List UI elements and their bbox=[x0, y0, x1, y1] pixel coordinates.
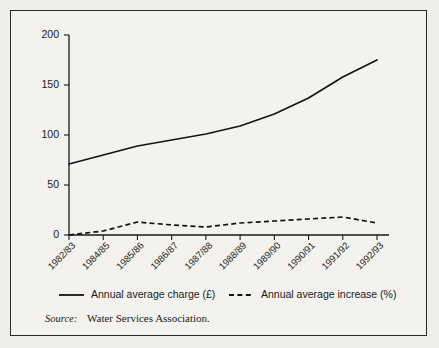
y-tick-label: 200 bbox=[41, 28, 59, 40]
chart-axes bbox=[69, 35, 389, 235]
y-tick-label: 150 bbox=[41, 78, 59, 90]
x-tick-label: 1992/93 bbox=[353, 240, 385, 272]
x-tick-label: 1989/90 bbox=[251, 240, 283, 272]
y-axis-ticks: 050100150200 bbox=[41, 28, 69, 240]
y-tick-label: 0 bbox=[53, 228, 59, 240]
chart-legend: Annual average charge (£)Annual average … bbox=[59, 288, 396, 300]
x-tick-label: 1990/91 bbox=[285, 240, 317, 272]
source-note: Source:Water Services Association. bbox=[45, 312, 210, 324]
x-tick-label: 1991/92 bbox=[319, 240, 351, 272]
source-word: Source: bbox=[45, 313, 77, 324]
line-chart: 050100150200 1982/831984/851985/861986/8… bbox=[11, 11, 428, 337]
series-line-charge bbox=[69, 60, 377, 164]
x-tick-label: 1988/89 bbox=[216, 240, 248, 272]
x-axis-labels: 1982/831984/851985/861986/871987/881988/… bbox=[45, 240, 385, 272]
x-tick-label: 1987/88 bbox=[182, 240, 214, 272]
x-tick-label: 1984/85 bbox=[80, 240, 112, 272]
y-tick-label: 50 bbox=[47, 178, 59, 190]
axis-lines bbox=[69, 35, 389, 235]
x-tick-label: 1982/83 bbox=[45, 240, 77, 272]
chart-figure: 050100150200 1982/831984/851985/861986/8… bbox=[10, 10, 427, 336]
x-tick-label: 1985/86 bbox=[114, 240, 146, 272]
chart-series bbox=[69, 60, 377, 235]
x-axis-ticks bbox=[69, 235, 377, 240]
y-tick-label: 100 bbox=[41, 128, 59, 140]
legend-label: Annual average increase (%) bbox=[261, 288, 396, 300]
series-line-increase bbox=[69, 217, 377, 235]
source-attribution: Water Services Association. bbox=[87, 312, 210, 324]
legend-label: Annual average charge (£) bbox=[91, 288, 215, 300]
x-tick-label: 1986/87 bbox=[148, 240, 180, 272]
